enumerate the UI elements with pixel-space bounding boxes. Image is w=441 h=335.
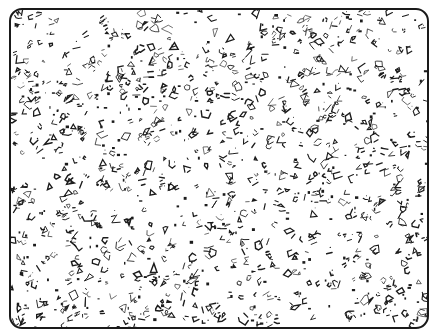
pattern-frame xyxy=(9,8,429,329)
speckle-pattern xyxy=(11,10,427,327)
